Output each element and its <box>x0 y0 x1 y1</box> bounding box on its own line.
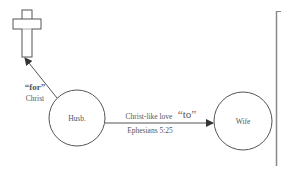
wife-node: Wife <box>214 92 272 150</box>
arrow-husband-to-cross <box>25 58 57 98</box>
christ-like-love-label: Christ-like love <box>126 112 174 121</box>
right-bracket <box>277 11 282 166</box>
ephesians-reference: Ephesians 5:25 <box>127 126 173 135</box>
for-label: “for” <box>25 82 46 92</box>
diagram-canvas: “for” Christ Husb. Christ-like love “to”… <box>0 0 282 173</box>
cross-icon <box>13 10 41 57</box>
husband-label: Husb. <box>68 114 86 123</box>
to-label: “to” <box>178 108 196 120</box>
wife-label: Wife <box>236 117 251 126</box>
husband-node: Husb. <box>49 90 105 146</box>
christ-label: Christ <box>26 94 45 103</box>
